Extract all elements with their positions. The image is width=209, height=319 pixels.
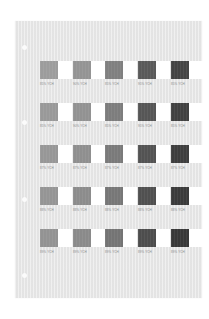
swatch-row: 88% YCH88% YCH88% YCH88% YCH88% YCH bbox=[40, 187, 190, 213]
white-patch bbox=[123, 229, 137, 247]
swatch-cell: 89% YCH bbox=[138, 229, 171, 255]
white-patch bbox=[189, 229, 203, 247]
swatch-cell: 88% YCH bbox=[138, 187, 171, 213]
swatch-cell: 89% YCH bbox=[73, 229, 106, 255]
swatch-row: 89% YCH89% YCH89% YCH89% YCH89% YCH bbox=[40, 229, 190, 255]
swatch-cell: 95% YCH bbox=[138, 103, 171, 129]
swatch-label: 89% YCH bbox=[138, 250, 162, 254]
swatch-cell: 85% YCH bbox=[105, 103, 138, 129]
swatch-cell: 85% YCH bbox=[105, 61, 138, 87]
white-patch bbox=[58, 103, 72, 121]
swatch-cell: 85% YCH bbox=[171, 103, 204, 129]
gray-swatch bbox=[40, 145, 58, 163]
swatch-cell: 88% YCH bbox=[40, 187, 73, 213]
swatch-label: 87% YCH bbox=[40, 166, 64, 170]
gray-swatch bbox=[40, 229, 58, 247]
gray-swatch bbox=[105, 103, 123, 121]
white-patch bbox=[123, 187, 137, 205]
gray-swatch bbox=[171, 61, 189, 79]
white-patch bbox=[123, 145, 137, 163]
swatch-label: 85% YCH bbox=[40, 82, 64, 86]
white-patch bbox=[189, 187, 203, 205]
swatch-label: 90% YCH bbox=[73, 124, 97, 128]
white-patch bbox=[58, 61, 72, 79]
swatch-cell: 89% YCH bbox=[105, 229, 138, 255]
white-patch bbox=[123, 61, 137, 79]
swatch-label: 89% YCH bbox=[171, 250, 195, 254]
swatch-label: 89% YCH bbox=[73, 250, 97, 254]
gray-swatch bbox=[73, 229, 91, 247]
gray-swatch bbox=[73, 103, 91, 121]
gray-swatch bbox=[40, 187, 58, 205]
white-patch bbox=[91, 145, 105, 163]
gray-swatch bbox=[73, 145, 91, 163]
swatch-sheet: 85% YCH90% YCH85% YCH95% YCH85% YCH85% Y… bbox=[15, 21, 202, 298]
swatch-label: 85% YCH bbox=[105, 82, 129, 86]
swatch-cell: 89% YCH bbox=[40, 229, 73, 255]
white-patch bbox=[58, 187, 72, 205]
swatch-cell: 90% YCH bbox=[73, 103, 106, 129]
swatch-label: 89% YCH bbox=[105, 250, 129, 254]
gray-swatch bbox=[171, 229, 189, 247]
gray-swatch bbox=[73, 61, 91, 79]
swatch-label: 85% YCH bbox=[40, 124, 64, 128]
white-patch bbox=[189, 145, 203, 163]
swatch-label: 88% YCH bbox=[105, 208, 129, 212]
swatch-label: 90% YCH bbox=[73, 82, 97, 86]
punch-hole bbox=[22, 120, 27, 125]
swatch-label: 85% YCH bbox=[171, 124, 195, 128]
swatch-cell: 89% YCH bbox=[171, 229, 204, 255]
gray-swatch bbox=[105, 187, 123, 205]
gray-swatch bbox=[138, 187, 156, 205]
swatch-label: 88% YCH bbox=[73, 208, 97, 212]
swatch-label: 87% YCH bbox=[138, 166, 162, 170]
gray-swatch bbox=[40, 61, 58, 79]
white-patch bbox=[91, 103, 105, 121]
swatch-cell: 87% YCH bbox=[40, 145, 73, 171]
white-patch bbox=[58, 229, 72, 247]
white-patch bbox=[156, 187, 170, 205]
punch-hole bbox=[22, 273, 27, 278]
gray-swatch bbox=[138, 103, 156, 121]
swatch-label: 85% YCH bbox=[171, 82, 195, 86]
swatch-cell: 85% YCH bbox=[40, 103, 73, 129]
swatch-label: 89% YCH bbox=[40, 250, 64, 254]
swatch-label: 95% YCH bbox=[138, 82, 162, 86]
swatch-cell: 85% YCH bbox=[171, 61, 204, 87]
gray-swatch bbox=[105, 145, 123, 163]
swatch-row: 85% YCH90% YCH85% YCH95% YCH85% YCH bbox=[40, 103, 190, 129]
swatch-cell: 90% YCH bbox=[73, 61, 106, 87]
swatch-label: 88% YCH bbox=[138, 208, 162, 212]
white-patch bbox=[58, 145, 72, 163]
swatch-cell: 95% YCH bbox=[138, 61, 171, 87]
swatch-cell: 87% YCH bbox=[138, 145, 171, 171]
gray-swatch bbox=[105, 61, 123, 79]
white-patch bbox=[156, 61, 170, 79]
white-patch bbox=[189, 61, 203, 79]
swatch-cell: 87% YCH bbox=[105, 145, 138, 171]
swatch-label: 88% YCH bbox=[40, 208, 64, 212]
white-patch bbox=[91, 187, 105, 205]
punch-hole bbox=[22, 45, 27, 50]
swatch-label: 88% YCH bbox=[171, 208, 195, 212]
gray-swatch bbox=[138, 61, 156, 79]
swatch-cell: 88% YCH bbox=[73, 187, 106, 213]
white-patch bbox=[91, 229, 105, 247]
swatch-label: 87% YCH bbox=[171, 166, 195, 170]
swatch-row: 85% YCH90% YCH85% YCH95% YCH85% YCH bbox=[40, 61, 190, 87]
swatch-cell: 88% YCH bbox=[105, 187, 138, 213]
swatch-label: 87% YCH bbox=[73, 166, 97, 170]
swatch-label: 85% YCH bbox=[105, 124, 129, 128]
swatch-row: 87% YCH87% YCH87% YCH87% YCH87% YCH bbox=[40, 145, 190, 171]
gray-swatch bbox=[171, 103, 189, 121]
white-patch bbox=[91, 61, 105, 79]
gray-swatch bbox=[73, 187, 91, 205]
gray-swatch bbox=[105, 229, 123, 247]
swatch-cell: 87% YCH bbox=[73, 145, 106, 171]
gray-swatch bbox=[171, 145, 189, 163]
swatch-label: 87% YCH bbox=[105, 166, 129, 170]
white-patch bbox=[156, 103, 170, 121]
gray-swatch bbox=[171, 187, 189, 205]
white-patch bbox=[189, 103, 203, 121]
swatch-cell: 88% YCH bbox=[171, 187, 204, 213]
